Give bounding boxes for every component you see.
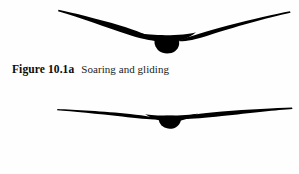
bird-b-shoulders [145,114,198,122]
figure-caption-text-a: Soaring and gliding [81,63,169,75]
figure-caption-label-a: Figure 10.1a [12,63,74,75]
figure-page: Figure 10.1aSoaring and gliding Figure 1… [0,0,299,174]
bird-b-right-wing [176,108,293,119]
bird-b-left-wing [57,109,162,120]
bird-a-left-wing [58,10,158,41]
figure-block-b: Figure 10.1bSoaring and gliding [0,87,299,174]
gliding-bird-silhouette-flat-icon [0,87,299,137]
bird-a-shoulders [140,32,196,42]
figure-block-a: Figure 10.1aSoaring and gliding [0,0,299,87]
bird-a-right-wing [178,11,291,41]
soaring-bird-silhouette-dihedral-icon [0,0,299,58]
figure-caption-a: Figure 10.1aSoaring and gliding [12,60,169,76]
